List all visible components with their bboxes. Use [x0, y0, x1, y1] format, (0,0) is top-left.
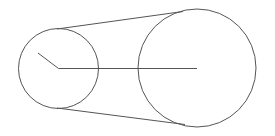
radius-segment	[38, 53, 59, 69]
bottom-belt-line	[57, 108, 185, 125]
belt-pulley-diagram	[0, 0, 275, 136]
top-belt-line	[57, 12, 183, 30]
diagram-svg	[0, 0, 275, 136]
